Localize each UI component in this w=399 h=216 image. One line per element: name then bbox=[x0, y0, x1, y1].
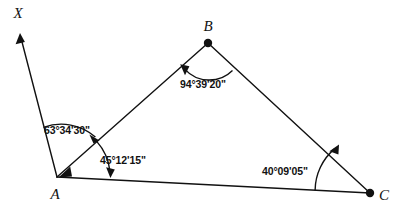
angle-label-xab: 63°34'30" bbox=[44, 124, 90, 136]
angle-label-bac: 45°12'15" bbox=[100, 154, 146, 166]
angle-arc-abc-arrowhead bbox=[180, 64, 189, 75]
vertex-label-b: B bbox=[203, 18, 212, 34]
vertex-a-arrowhead bbox=[59, 167, 73, 178]
triangle-diagram-canvas: X A B C 63°34'30" 45°12'15" 94°39'20" 40… bbox=[0, 0, 399, 216]
geometry-figure: X A B C 63°34'30" 45°12'15" 94°39'20" 40… bbox=[0, 0, 399, 216]
angle-label-abc: 94°39'20" bbox=[180, 78, 226, 90]
ray-x-arrowhead bbox=[16, 33, 25, 44]
vertex-dot-c bbox=[366, 189, 374, 197]
vertex-dot-b bbox=[204, 39, 212, 47]
ray-a-to-x bbox=[22, 40, 58, 177]
angle-arc-bac-arrowhead bbox=[106, 167, 115, 178]
vertex-label-x: X bbox=[12, 5, 23, 21]
vertex-label-a: A bbox=[49, 186, 60, 202]
angle-arc-bca bbox=[315, 149, 335, 191]
side-a-to-c bbox=[57, 177, 370, 193]
angle-label-bca: 40°09'05" bbox=[262, 165, 308, 177]
vertex-label-c: C bbox=[379, 187, 390, 203]
